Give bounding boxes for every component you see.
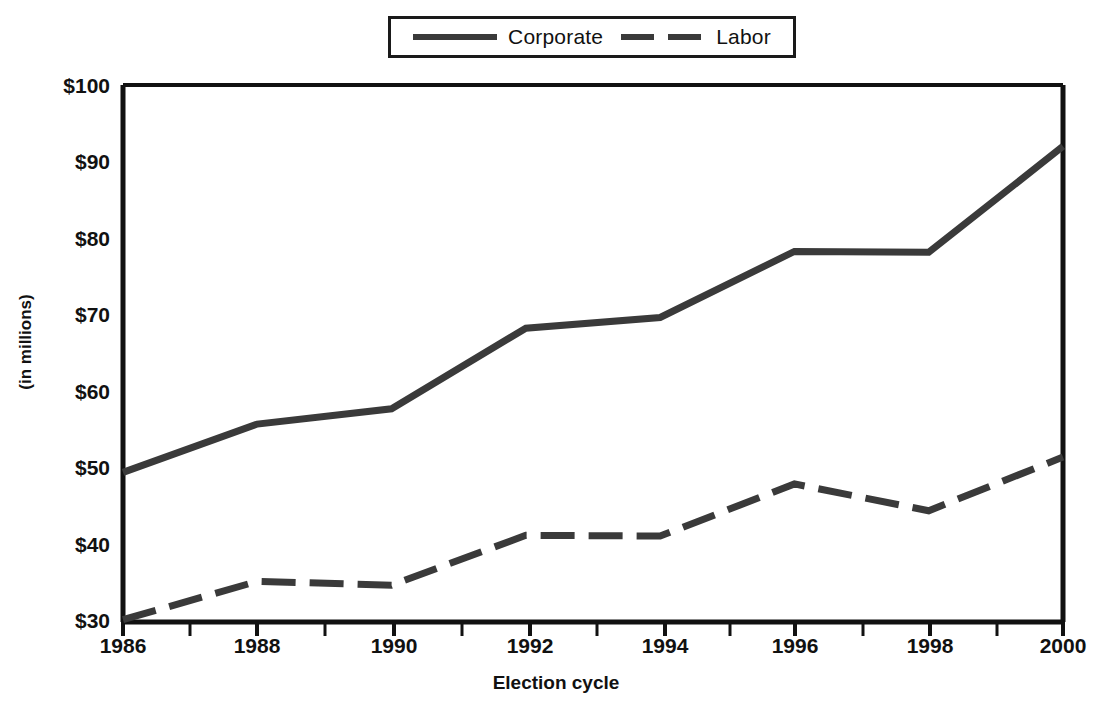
- series-line-labor: [123, 457, 1063, 620]
- series-line-corporate: [123, 146, 1063, 472]
- line-chart: Corporate Labor (in millions) Election c…: [0, 0, 1112, 718]
- axis-frame: [123, 85, 1063, 622]
- plot-area: [0, 0, 1112, 718]
